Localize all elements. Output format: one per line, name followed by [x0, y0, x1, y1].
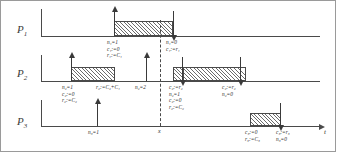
preemption-dashed-line	[160, 20, 161, 126]
p2-resume-arrow	[182, 57, 183, 81]
p2-resume-annotation: c₂:=r₂ n₂=1 c₂:=0 r₂:=C₂	[169, 84, 184, 110]
arrow-head-down-icon	[238, 80, 244, 86]
p3-execution-block	[250, 113, 281, 126]
p2-execution-block-second	[183, 67, 246, 81]
p2-second-release-annotation: n₂=2	[135, 84, 146, 91]
p2-budget-sum-annotation: r₂:=C₂+C₁	[96, 84, 120, 91]
p3-vertical-axis	[41, 100, 42, 127]
p1-execution-block	[114, 21, 173, 36]
timing-diagram-figure: P1 n₁=1 c₁:=0 r₁:=C₁ n₁=0 c₁:=r₁ P2 n₂=1…	[0, 0, 337, 153]
p2-completion-annotation: c₂:=r₂ n₂=0	[222, 84, 236, 97]
p1-completion-annotation: n₁=0 c₁:=r₁	[166, 39, 180, 52]
p2-completion-arrow	[240, 57, 241, 81]
process-label-p2: P2	[17, 68, 27, 82]
p3-completion-arrow	[280, 103, 281, 126]
p1-release-arrow	[114, 11, 115, 36]
p2-second-release-arrow	[146, 57, 147, 81]
time-axis-label: t	[324, 128, 326, 136]
process-label-p3: P3	[17, 116, 27, 130]
p3-completion-annotation: c₃:=r₃ n₃=0	[276, 129, 290, 142]
p1-completion-arrow	[173, 11, 174, 36]
p3-release-arrow	[97, 103, 98, 126]
p2-release-annotation: n₂=1 c₂:=0 r₂:=C₂	[62, 84, 77, 104]
process-label-p1: P1	[17, 24, 27, 38]
arrow-head-up-icon	[95, 98, 101, 104]
arrow-head-up-icon	[69, 52, 75, 58]
arrow-head-up-icon	[112, 6, 118, 12]
p2-execution-block-first	[71, 67, 115, 81]
preemption-marker-label: x	[158, 128, 161, 134]
p2-vertical-axis	[41, 55, 42, 82]
arrow-head-up-icon	[144, 52, 150, 58]
p3-start-annotation: c₃:=0 r₃:=C₃	[245, 129, 260, 142]
p1-release-annotation: n₁=1 c₁:=0 r₁:=C₁	[107, 39, 122, 59]
p1-time-axis	[41, 36, 320, 37]
p3-release-annotation: n₃=1	[88, 129, 99, 136]
p1-vertical-axis	[41, 9, 42, 37]
p2-release-arrow	[71, 57, 72, 81]
